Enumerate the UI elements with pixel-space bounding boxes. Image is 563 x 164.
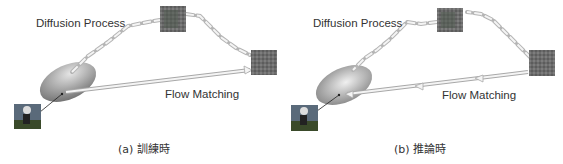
- diffusion-process-label: Diffusion Process: [36, 17, 125, 29]
- data-distribution-ellipse: [34, 54, 103, 110]
- panel-training: Diffusion Process Flow Matching (a) 訓練時: [0, 0, 281, 164]
- noise-image: [529, 50, 555, 76]
- flow-matching-label: Flow Matching: [442, 89, 516, 101]
- data-distribution-ellipse: [310, 57, 379, 113]
- flow-matching-label: Flow Matching: [165, 88, 239, 100]
- panel-caption: (a) 訓練時: [118, 140, 170, 156]
- diffusion-process-label: Diffusion Process: [313, 17, 402, 29]
- panel-caption: (b) 推論時: [394, 140, 446, 156]
- noise-image: [251, 50, 277, 75]
- panel-inference: Diffusion Process Flow Matching (b) 推論時: [281, 0, 562, 164]
